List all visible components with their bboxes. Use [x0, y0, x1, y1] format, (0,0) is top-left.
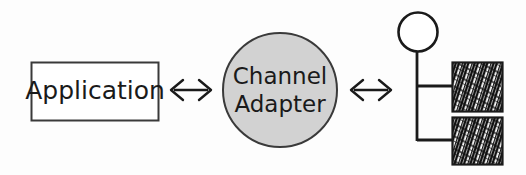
channel-adapter-diagram: Application Channel Adapter	[0, 0, 526, 175]
endpoint-top[interactable]	[453, 63, 503, 112]
messaging-system-node[interactable]	[399, 13, 503, 165]
channel-adapter-circle	[223, 33, 337, 147]
messaging-node-circle	[399, 13, 438, 52]
arrows-left-right-icon-right	[351, 80, 391, 100]
diagram-canvas: Application Channel Adapter	[0, 0, 526, 175]
channel-adapter-label-line2: Adapter	[234, 91, 326, 117]
application-node[interactable]: Application	[25, 63, 165, 121]
endpoint-top-scribble-overlay	[454, 64, 501, 110]
application-label: Application	[25, 76, 165, 105]
endpoint-bottom[interactable]	[453, 118, 503, 165]
arrows-left-right-icon-left	[171, 80, 211, 100]
channel-adapter-label-line1: Channel	[233, 63, 327, 89]
channel-adapter-node[interactable]: Channel Adapter	[223, 33, 337, 147]
endpoint-bottom-scribble-overlay	[454, 119, 501, 163]
